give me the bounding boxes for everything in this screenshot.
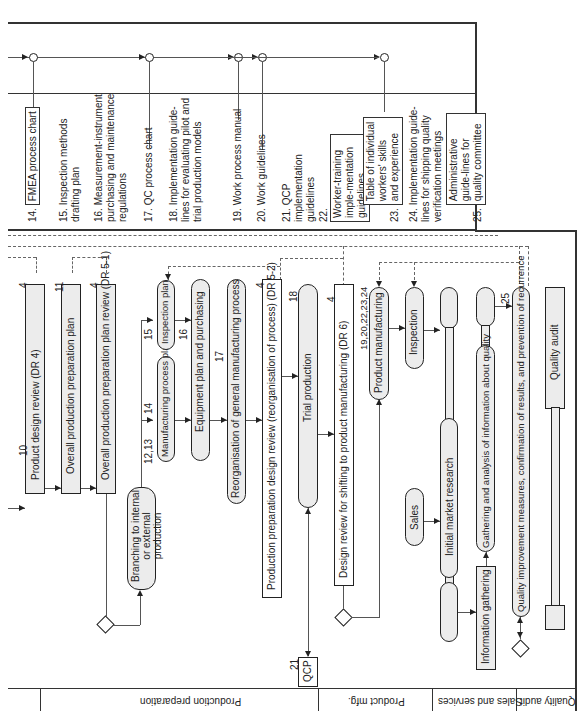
milestone-circle-skills (380, 53, 389, 62)
feedback-dash-4 (8, 257, 36, 258)
lane-product-mfg: Product mfg. (348, 696, 405, 707)
branch-up-line (141, 320, 142, 487)
doc-24: 24. Implementation guide-lines for shipp… (408, 102, 444, 222)
doc-14-text: FMEA process chart (25, 107, 40, 205)
node-market-research-bottom (440, 582, 458, 642)
timeline-divider (8, 93, 476, 94)
inspection-to-market-arrow (434, 327, 440, 333)
diamond-1-branch-arrow (137, 590, 143, 596)
node-product-design-review-label: Product design review (DR 4) (30, 349, 41, 480)
node-market-research-top (440, 287, 458, 329)
ref-dr6: 4 (326, 296, 337, 302)
mfg-plan-to-equipment-arrow (185, 417, 191, 423)
feedback-dash-13 (343, 246, 344, 286)
node-branching-label: Branching to internal or external produc… (130, 488, 163, 584)
ref-insp-plan-15: 15 (143, 329, 154, 340)
ref-mfg-plan-1213: 12,13 (143, 439, 154, 464)
lane-divider-3 (432, 688, 433, 711)
feedback-arrow-product-mfg (376, 281, 382, 287)
milestone-circle-qc (145, 53, 154, 62)
trial-to-dr6-arrow (328, 431, 334, 437)
equipment-to-reorg-arrow (221, 417, 227, 423)
diamond-2-right (351, 617, 379, 618)
sales-to-market-arrow (434, 518, 440, 524)
ref-prod-prep-review: 4 (255, 282, 266, 288)
node-quality-improvement-label: Quality improvement measures, confirmati… (515, 256, 526, 612)
node-quality-audit-bar (551, 407, 560, 607)
node-sales-label: Sales (409, 505, 420, 530)
feedback-dash-5 (36, 257, 37, 273)
timeline-line-2 (208, 57, 348, 58)
doc-21: 21. QCP implementation guidelines (281, 122, 317, 222)
dr6-to-diamond (343, 586, 344, 610)
flow-frame-right (575, 230, 577, 711)
decision-diamond-1 (96, 615, 114, 633)
lane-sales-services: Sales and services (438, 696, 522, 707)
ref-product-design-review-bottom: 10 (18, 445, 29, 456)
ref-overall-plan-review: 4 (89, 282, 100, 288)
node-market-research-label: Initial market research (444, 458, 455, 556)
analysis-to-improvement-arrow (506, 303, 512, 309)
doc-19: 19. Work process manual (232, 109, 244, 222)
feedback-dash-11 (280, 258, 281, 280)
ref-overall-plan: 11 (54, 282, 65, 292)
diamond-1-branch-up (140, 592, 141, 625)
ref-trial-18: 18 (288, 291, 299, 302)
ref-mfg-plan-14: 14 (143, 403, 154, 414)
market-to-info-arrow (470, 609, 476, 615)
branch-to-insp-plan-arrow (147, 317, 153, 323)
node-reorganisation-label: Reorganisation of general manufacturing … (230, 280, 241, 498)
arrow-2-3-head (90, 485, 96, 491)
doc-20: 20. Work guidelines (256, 134, 268, 222)
doc-25: 25. Administrative guide-lines for quali… (446, 102, 486, 222)
trial-qcp-link (308, 508, 309, 656)
milestone-circle-fmea (29, 53, 38, 62)
node-inspection-plan-label: Inspection plan (159, 280, 170, 344)
node-mfg-process-plan-label: Manufacturing process plan (159, 340, 170, 457)
node-quality-audit-label: Quality audit (549, 324, 560, 380)
flow-frame-top-right (475, 230, 576, 232)
timeline-arrow-1 (22, 54, 28, 60)
feedback-dash-15 (379, 262, 380, 280)
node-gathering-analysis-top (476, 287, 495, 327)
ref-product-mfg: 19,20,22,23,24 (358, 287, 369, 350)
ref-reorganisation-17: 17 (214, 351, 225, 362)
doc-16: 16. Measurement-instrument purchasing an… (93, 90, 129, 222)
node-prod-prep-design-review-label: Production preparation design review (re… (266, 262, 277, 590)
node-inspection-label: Inspection (408, 309, 419, 355)
improvement-diamond-arrow-up (517, 617, 523, 623)
feedback-dash-16 (414, 262, 415, 280)
lane-divider-1 (40, 688, 41, 711)
timeline-line-3 (348, 57, 378, 58)
ref-qcp-21: 21 (289, 659, 300, 670)
doc-18: 18. Implementation guide-lines for evalu… (168, 98, 204, 222)
doc-17: 17. QC process chart (143, 128, 155, 223)
doc-14: 14. FMEA process chart (27, 107, 39, 222)
node-equipment-plan-label: Equipment plan and purchasing (194, 291, 205, 432)
doc-23: 23. Table of individual workers' skills … (363, 112, 403, 222)
lane-bottom-line (8, 688, 576, 689)
node-overall-plan-label: Overall production preparation plan (65, 318, 76, 474)
decision-diamond-2 (334, 608, 352, 626)
decision-diamond-3 (511, 639, 529, 657)
connector-skills (384, 62, 385, 112)
outer-frame-top (8, 22, 476, 24)
ref-equipment-16: 16 (178, 329, 189, 340)
diamond-1-to-branch (113, 625, 140, 626)
doc-15: 15. Inspection methods drafting plan (58, 112, 82, 222)
feedback-dash-2 (8, 246, 528, 247)
feedback-arrow-insp-plan (165, 274, 171, 280)
branch-to-mfg-plan-arrow (147, 417, 153, 423)
node-gathering-analysis-label: Gathering and analysis of information ab… (480, 334, 491, 548)
diamond-1-vertical (106, 494, 107, 618)
node-qcp-label: QCP (302, 660, 313, 682)
feedback-dash-7 (72, 257, 73, 273)
improvement-diamond-arrow-down (517, 632, 523, 638)
mfg-to-inspection-arrow (399, 325, 405, 331)
ref-product-design-review-top: 4 (18, 282, 29, 288)
feedback-arrow-inspection (411, 281, 417, 287)
insp-plan-to-equipment-arrow (185, 317, 191, 323)
node-information-gathering-label: Information gathering (480, 569, 491, 664)
feedback-dash-18 (528, 262, 529, 286)
trial-qcp-arrow-up (305, 508, 311, 514)
